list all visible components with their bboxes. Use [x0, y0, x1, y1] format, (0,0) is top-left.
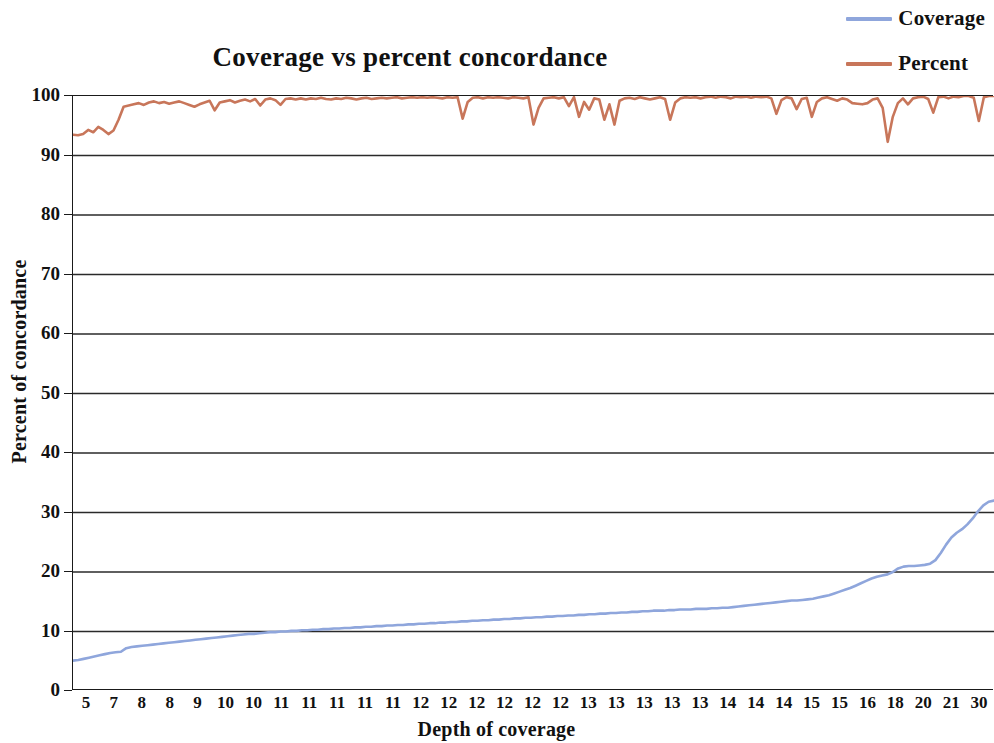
- legend-item-coverage: Coverage: [846, 6, 985, 31]
- y-tick-mark: [64, 690, 72, 691]
- x-tick-label: 10: [245, 693, 262, 713]
- x-tick-label: 10: [217, 693, 234, 713]
- y-tick-mark: [64, 393, 72, 394]
- legend-label-coverage: Coverage: [898, 6, 985, 31]
- y-tick-label: 80: [41, 203, 60, 225]
- legend-swatch-coverage: [846, 17, 892, 21]
- x-tick-label: 12: [552, 693, 569, 713]
- x-tick-label: 12: [412, 693, 429, 713]
- legend-label-percent: Percent: [898, 51, 968, 76]
- x-tick-label: 16: [859, 693, 876, 713]
- y-tick-label: 0: [51, 679, 61, 701]
- x-tick-label: 13: [664, 693, 681, 713]
- legend-item-percent: Percent: [846, 51, 985, 76]
- x-tick-label: 13: [691, 693, 708, 713]
- x-tick-label: 12: [496, 693, 513, 713]
- y-tick-label: 100: [32, 84, 61, 106]
- x-tick-label: 12: [468, 693, 485, 713]
- x-tick-label: 11: [385, 693, 401, 713]
- x-tick-label: 12: [440, 693, 457, 713]
- series-line-coverage: [73, 501, 994, 661]
- x-tick-label: 8: [165, 693, 174, 713]
- x-tick-label: 11: [357, 693, 373, 713]
- x-tick-label: 7: [110, 693, 119, 713]
- x-tick-label: 20: [915, 693, 932, 713]
- x-tick-label: 13: [580, 693, 597, 713]
- y-tick-label: 20: [41, 560, 60, 582]
- x-tick-label: 14: [747, 693, 764, 713]
- y-tick-mark: [64, 155, 72, 156]
- y-tick-mark: [64, 631, 72, 632]
- x-tick-label: 30: [971, 693, 988, 713]
- x-axis-title: Depth of coverage: [0, 718, 993, 741]
- chart-legend: Coverage Percent: [846, 6, 985, 76]
- x-tick-label: 21: [943, 693, 960, 713]
- y-axis-ticks: 1009080706050403020100: [0, 0, 72, 743]
- y-tick-label: 50: [41, 382, 60, 404]
- x-tick-label: 11: [273, 693, 289, 713]
- chart-title: Coverage vs percent concordance: [0, 42, 820, 73]
- x-tick-label: 11: [301, 693, 317, 713]
- y-tick-mark: [64, 95, 72, 96]
- y-tick-label: 10: [41, 620, 60, 642]
- y-tick-label: 30: [41, 501, 60, 523]
- legend-swatch-percent: [846, 62, 892, 66]
- y-tick-label: 40: [41, 441, 60, 463]
- x-tick-label: 5: [82, 693, 91, 713]
- y-tick-mark: [64, 571, 72, 572]
- x-tick-label: 18: [887, 693, 904, 713]
- x-tick-label: 12: [524, 693, 541, 713]
- plot-area: [72, 95, 993, 690]
- x-tick-label: 13: [608, 693, 625, 713]
- plot-svg: [73, 96, 994, 691]
- y-tick-mark: [64, 274, 72, 275]
- x-tick-label: 13: [636, 693, 653, 713]
- x-tick-label: 14: [775, 693, 792, 713]
- y-tick-mark: [64, 214, 72, 215]
- x-tick-label: 15: [831, 693, 848, 713]
- y-tick-label: 90: [41, 144, 60, 166]
- series-line-percent: [73, 96, 994, 142]
- y-tick-label: 60: [41, 322, 60, 344]
- x-tick-label: 14: [719, 693, 736, 713]
- y-tick-mark: [64, 452, 72, 453]
- x-tick-label: 15: [803, 693, 820, 713]
- x-tick-label: 11: [329, 693, 345, 713]
- y-tick-mark: [64, 512, 72, 513]
- x-tick-label: 9: [193, 693, 202, 713]
- y-tick-label: 70: [41, 263, 60, 285]
- x-tick-label: 8: [138, 693, 147, 713]
- y-tick-mark: [64, 333, 72, 334]
